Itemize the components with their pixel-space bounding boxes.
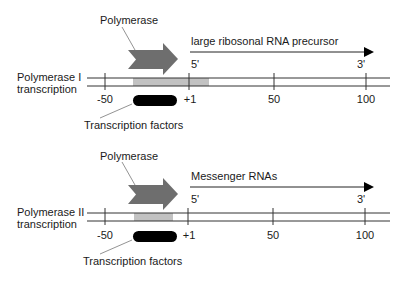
tick-label-minus50: -50 — [97, 93, 113, 105]
side-label-line2: transcription — [17, 84, 77, 95]
transcript-label: large ribosonal RNA precursor — [191, 35, 338, 47]
transcription-factor-oval — [133, 231, 177, 242]
polymerase-leader-line — [122, 162, 135, 185]
transcript-arrow-head-icon — [364, 182, 374, 192]
tick-label-100: 100 — [357, 93, 375, 105]
transcript-label: Messenger RNAs — [191, 170, 277, 182]
promoter-region-box — [134, 213, 173, 221]
tick-label-minus50: -50 — [97, 229, 113, 241]
side-label-line1: Polymerase I — [17, 72, 81, 83]
tick-label-50: 50 — [267, 229, 279, 241]
transcript-arrow-head-icon — [364, 47, 374, 57]
tick-label-50: 50 — [268, 93, 280, 105]
polymerase-leader-line — [122, 27, 135, 50]
polymerase-label: Polymerase — [100, 150, 158, 162]
transcription-factors-label: Transcription factors — [84, 119, 183, 131]
side-label-line1: Polymerase II — [17, 207, 84, 218]
polymerase-arrow-icon — [128, 178, 178, 210]
polymerase-label: Polymerase — [100, 14, 158, 26]
transcription-factor-oval — [133, 95, 177, 106]
tick-label-plus1: +1 — [184, 93, 197, 105]
promoter-region-box — [133, 78, 209, 86]
five-prime-label: 5' — [191, 193, 199, 205]
factor-leader-line — [100, 104, 132, 118]
side-label-line2: transcription — [17, 219, 77, 230]
transcription-factors-label: Transcription factors — [83, 255, 182, 267]
three-prime-label: 3' — [357, 193, 365, 205]
tick-label-plus1: +1 — [183, 229, 196, 241]
factor-leader-line — [100, 240, 132, 254]
three-prime-label: 3' — [357, 58, 365, 70]
polymerase-arrow-icon — [128, 43, 178, 75]
tick-label-100: 100 — [356, 229, 374, 241]
five-prime-label: 5' — [191, 58, 199, 70]
